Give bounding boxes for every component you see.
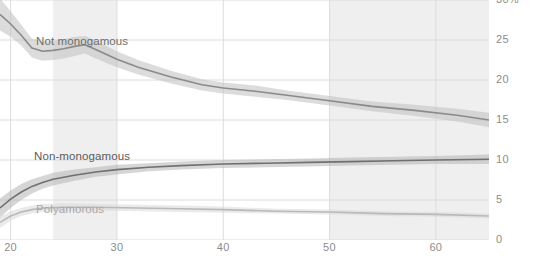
x-tick-label-50: 50 xyxy=(323,241,336,253)
y-tick-label-0: 0 xyxy=(496,233,502,245)
y-tick-label-25: 25 xyxy=(496,33,509,45)
y-tick-label-5: 5 xyxy=(496,193,502,205)
x-tick-label-60: 60 xyxy=(429,241,442,253)
y-tick-label-15: 15 xyxy=(496,113,509,125)
x-tick-label-30: 30 xyxy=(111,241,124,253)
series-label-not-monogamous: Not monogamous xyxy=(36,35,128,47)
y-tick-label-10: 10 xyxy=(496,153,509,165)
chart-container: 051015202530% 2030405060 Not monogamous … xyxy=(0,0,544,263)
series-label-non-monogamous: Non-monogamous xyxy=(34,150,130,162)
y-tick-label-30: 30% xyxy=(496,0,519,5)
y-tick-label-20: 20 xyxy=(496,73,509,85)
series-label-polyamorous: Polyamorous xyxy=(36,203,104,215)
x-tick-label-20: 20 xyxy=(4,241,17,253)
x-tick-label-40: 40 xyxy=(217,241,230,253)
